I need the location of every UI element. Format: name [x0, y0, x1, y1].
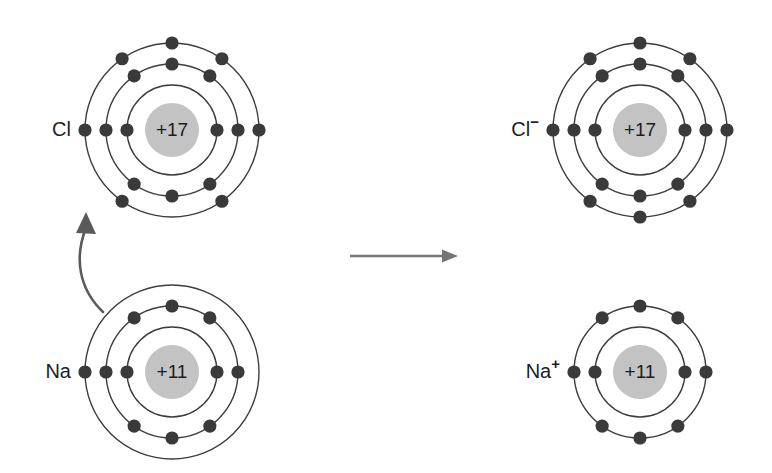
electron-dot [699, 123, 712, 136]
electron-dot [699, 365, 712, 378]
electron-dot [128, 177, 141, 190]
electron-dot [671, 177, 684, 190]
electron-dot [596, 69, 609, 82]
electron-dot [678, 365, 691, 378]
electron-transfer-arrow [76, 212, 103, 312]
electron-dot [116, 195, 129, 208]
reaction-arrow [350, 250, 458, 263]
electron-dot [203, 69, 216, 82]
electron-dot [683, 52, 696, 65]
electron-dot [596, 419, 609, 432]
electron-dot [584, 195, 597, 208]
electron-dot [120, 365, 133, 378]
electron-dot [633, 210, 646, 223]
electron-dot [671, 419, 684, 432]
atom-sodium-atom: +11Na [45, 285, 259, 459]
electron-dot [210, 123, 223, 136]
electron-dot [633, 57, 646, 70]
electron-dot [588, 365, 601, 378]
species-label: Cl [52, 118, 71, 140]
electron-dot [120, 123, 133, 136]
electron-dot [128, 311, 141, 324]
electron-dot [128, 69, 141, 82]
electron-dot [165, 299, 178, 312]
nucleus-charge-label: +17 [624, 119, 656, 140]
ionic-bonding-diagram: +17Cl +11Na +17Cl− +11Na+ [0, 0, 772, 473]
electron-dot [210, 365, 223, 378]
electron-dot [633, 189, 646, 202]
electron-dot [128, 419, 141, 432]
electron-dot [588, 123, 601, 136]
electron-dot [99, 365, 112, 378]
diagram-canvas: +17Cl +11Na +17Cl− +11Na+ [0, 0, 772, 473]
electron-dot [165, 431, 178, 444]
species-label: Cl− [511, 113, 539, 140]
electron-transfer-arrow-path [80, 228, 103, 312]
electron-dot [203, 311, 216, 324]
electron-dot [567, 365, 580, 378]
nucleus-charge-label: +11 [157, 361, 188, 382]
electron-dot [99, 123, 112, 136]
species-label: Na [45, 360, 71, 382]
electron-dot [252, 123, 265, 136]
electron-dot [678, 123, 691, 136]
electron-dot [720, 123, 733, 136]
electron-dot [165, 189, 178, 202]
reaction-arrow-head [442, 250, 458, 263]
electron-dot [596, 177, 609, 190]
electron-dot [633, 299, 646, 312]
nucleus-charge-label: +17 [156, 119, 188, 140]
nucleus-charge-label: +11 [625, 361, 656, 382]
electron-dot [584, 52, 597, 65]
electron-dot [78, 365, 91, 378]
electron-dot [546, 123, 559, 136]
electron-dot [116, 52, 129, 65]
electron-dot [203, 419, 216, 432]
electron-dot [215, 52, 228, 65]
electron-dot [633, 36, 646, 49]
electron-dot [165, 36, 178, 49]
electron-dot [78, 123, 91, 136]
electron-dot [671, 69, 684, 82]
electron-dot [633, 431, 646, 444]
electron-dot [596, 311, 609, 324]
atom-chloride-ion: +17Cl− [511, 36, 733, 223]
electron-dot [165, 57, 178, 70]
electron-dot [215, 195, 228, 208]
electron-dot [231, 365, 244, 378]
electron-transfer-arrow-head [76, 212, 96, 234]
atom-sodium-ion: +11Na+ [526, 299, 713, 444]
electron-dot [683, 195, 696, 208]
electron-dot [671, 311, 684, 324]
species-label: Na+ [526, 355, 561, 382]
electron-dot [567, 123, 580, 136]
electron-dot [231, 123, 244, 136]
atom-chlorine-atom: +17Cl [52, 36, 265, 217]
electron-dot [203, 177, 216, 190]
